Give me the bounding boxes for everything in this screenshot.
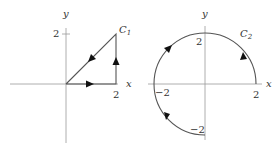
y-neg-tick-label: −2	[190, 124, 205, 135]
arrow-right-icon	[86, 81, 94, 88]
y-tick-label: 2	[53, 28, 59, 39]
x-pos-tick-label: 2	[253, 89, 259, 100]
figure: y 2 x 2 C1 y 2 −2 x 2 −2 C2	[0, 0, 279, 155]
x-axis-label: x	[266, 78, 272, 89]
arrow-up-icon	[113, 57, 120, 65]
curve-label-c1: C1	[119, 24, 131, 37]
y-axis-label: y	[201, 8, 208, 19]
x-neg-tick-label: −2	[155, 87, 170, 98]
x-axis-label: x	[126, 78, 132, 89]
x-tick-label: 2	[113, 89, 119, 100]
y-axis-label: y	[62, 8, 69, 19]
y-pos-tick-label: 2	[196, 36, 202, 47]
curve-label-c2: C2	[240, 28, 253, 41]
right-panel: y 2 −2 x 2 −2 C2	[148, 8, 272, 140]
left-panel: y 2 x 2 C1	[10, 8, 132, 143]
